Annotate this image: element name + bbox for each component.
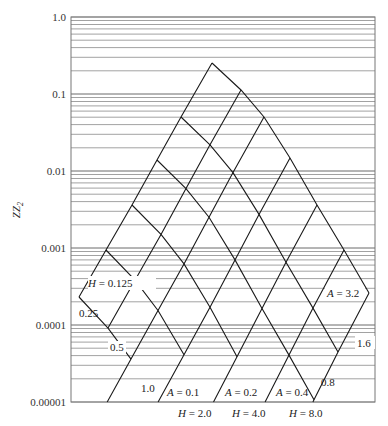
- label-a-0.8: 0.8: [321, 376, 335, 388]
- h-curve-4: [106, 250, 184, 355]
- y-tick-0.001: 0.001: [41, 242, 66, 254]
- nomograph-chart: 1.0 0.1 0.01 0.001 0.0001 0.00001 ZZ2 H …: [0, 0, 388, 426]
- y-axis-label-main: ZZ: [10, 205, 22, 218]
- label-h-1.0: 1.0: [141, 382, 155, 394]
- label-h-8.0: H = 8.0: [288, 407, 323, 419]
- a-line-1: [108, 90, 241, 328]
- h-curve-2: [157, 160, 314, 400]
- a-line-4: [214, 205, 318, 402]
- y-tick-0.00001: 0.00001: [30, 396, 66, 408]
- y-tick-0.0001: 0.0001: [36, 319, 66, 331]
- label-a-0.4: A = 0.4: [275, 386, 309, 398]
- label-h-4.0: H = 4.0: [231, 407, 266, 419]
- y-tick-1: 1.0: [52, 11, 66, 23]
- label-a-1.6: 1.6: [357, 337, 371, 349]
- svg-text:ZZ2: ZZ2: [10, 202, 25, 218]
- y-axis-label-sub: 2: [16, 202, 25, 206]
- y-tick-labels: 1.0 0.1 0.01 0.001 0.0001 0.00001: [30, 11, 66, 408]
- label-a-3.2: A = 3.2: [326, 287, 359, 299]
- annotations: H = 0.125 0.25 0.5 1.0 A = 0.1 A = 0.2 A…: [79, 276, 375, 419]
- y-tick-0.1: 0.1: [52, 88, 66, 100]
- y-tick-0.01: 0.01: [47, 165, 66, 177]
- label-h-2.0: H = 2.0: [177, 407, 212, 419]
- label-h-0.125: H = 0.125: [87, 277, 133, 289]
- label-a-0.1: A = 0.1: [166, 386, 199, 398]
- label-a-0.2: A = 0.2: [224, 386, 257, 398]
- y-axis-label: ZZ2: [10, 202, 25, 218]
- label-h-0.25: 0.25: [79, 307, 99, 319]
- label-h-0.5: 0.5: [110, 341, 124, 353]
